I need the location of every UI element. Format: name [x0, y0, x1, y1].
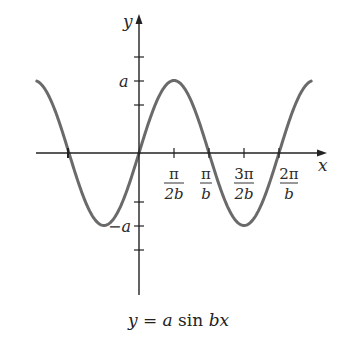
x-tick-label-pi-over-b: π b [200, 165, 212, 203]
x-axis-label: x [318, 155, 328, 175]
caption-sin: sin [173, 310, 209, 330]
caption-a: a [163, 310, 173, 330]
sine-graph-figure: y x a −a π 2b π b 3π 2b 2π b y = a sin b… [0, 0, 357, 338]
svg-text:2b: 2b [233, 185, 253, 203]
svg-text:2π: 2π [279, 165, 299, 183]
caption-y: y [128, 310, 138, 330]
plot-area: y x a −a π 2b π b 3π 2b 2π b [0, 0, 357, 338]
svg-text:2b: 2b [163, 185, 183, 203]
svg-text:π: π [201, 165, 211, 183]
svg-text:π: π [169, 165, 179, 183]
svg-text:b: b [284, 185, 294, 203]
caption-equals: = [138, 310, 163, 330]
x-tick-label-2pi-over-b: 2π b [279, 165, 299, 203]
caption-bx: bx [209, 310, 229, 330]
svg-text:3π: 3π [234, 165, 254, 183]
y-axis-label: y [122, 11, 133, 31]
equation-caption: y = a sin bx [0, 310, 357, 330]
x-tick-label-3pi-over-2b: 3π 2b [233, 165, 254, 203]
y-tick-label-neg-a: −a [108, 217, 131, 236]
svg-text:b: b [201, 185, 211, 203]
x-tick-label-pi-over-2b: π 2b [163, 165, 184, 203]
y-axis-arrow-icon [136, 14, 143, 24]
y-tick-label-a: a [119, 72, 129, 91]
